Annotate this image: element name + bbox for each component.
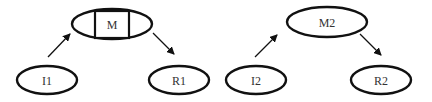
node-m2: M2 bbox=[287, 7, 367, 37]
edge-i2-to-m2 bbox=[255, 35, 277, 57]
node-m-label: M bbox=[107, 18, 118, 32]
edge-m-to-r1 bbox=[153, 33, 174, 54]
node-i2-label: I2 bbox=[251, 74, 261, 88]
node-r2-label: R2 bbox=[374, 74, 388, 88]
diagram-group-2: I2 M2 R2 bbox=[226, 7, 411, 94]
node-i1: I1 bbox=[17, 66, 77, 94]
diagram-group-1: I1 M R1 bbox=[17, 9, 209, 94]
diagram-canvas: I1 M R1 I2 M2 R2 bbox=[0, 0, 432, 102]
node-m2-label: M2 bbox=[319, 16, 336, 30]
edge-m2-to-r2 bbox=[360, 34, 381, 55]
node-m: M bbox=[72, 9, 152, 39]
node-i1-label: I1 bbox=[42, 74, 52, 88]
node-r1-label: R1 bbox=[172, 74, 186, 88]
node-r1: R1 bbox=[149, 66, 209, 94]
edge-i1-to-m bbox=[48, 34, 70, 57]
node-i2: I2 bbox=[226, 66, 286, 94]
node-r2: R2 bbox=[351, 66, 411, 94]
